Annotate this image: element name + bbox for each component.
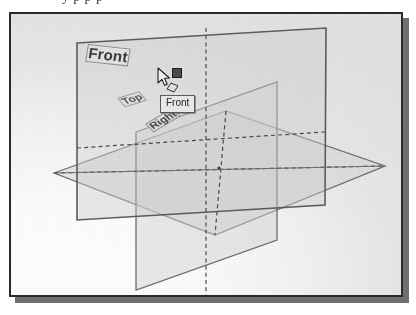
plane-tooltip: Front <box>160 95 195 113</box>
plane-face-icon <box>166 82 179 93</box>
reference-planes-svg <box>11 14 401 295</box>
selection-grip-square[interactable] <box>172 68 182 78</box>
cad-viewport[interactable]: Front Top Right Front <box>11 14 401 295</box>
figure-frame: Front Top Right Front <box>9 12 403 297</box>
origin-point <box>217 166 220 169</box>
page-text-sliver-label: y p p p <box>62 0 103 5</box>
page-text-sliver: y p p p <box>0 0 416 9</box>
